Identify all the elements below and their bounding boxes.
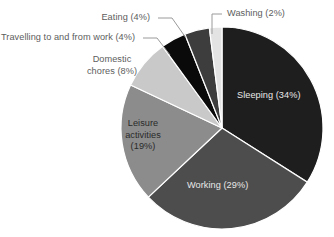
slice-label-leisure-line1: Leisure [128, 118, 158, 128]
slice-label-domestic-chores: Domestic chores (8%) [70, 54, 154, 77]
slice-label-working: Working (29%) [187, 180, 248, 192]
pie-chart: Eating (4%) Travelling to and from work … [0, 0, 334, 237]
slice-label-leisure-line3: (19%) [131, 141, 156, 151]
slice-label-eating: Eating (4%) [101, 12, 150, 24]
slice-label-leisure-line2: activities [125, 130, 161, 140]
slice-label-leisure-activities: Leisure activities (19%) [110, 118, 176, 153]
slice-label-domestic-chores-line2: chores (8%) [87, 66, 137, 76]
slice-label-washing: Washing (2%) [227, 8, 285, 20]
slice-label-domestic-chores-line1: Domestic [93, 54, 132, 64]
slice-label-sleeping: Sleeping (34%) [237, 90, 301, 102]
slice-label-travelling: Travelling to and from work (4%) [1, 32, 135, 44]
